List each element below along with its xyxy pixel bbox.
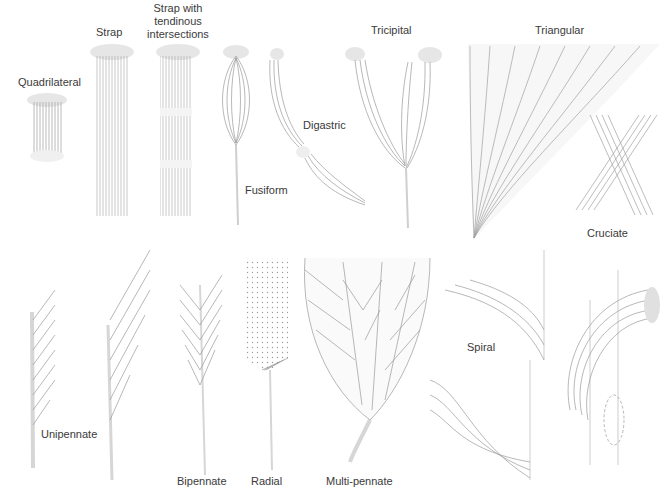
label-tricipital: Tricipital — [371, 24, 412, 37]
label-triangular: Triangular — [535, 24, 584, 37]
label-spiral: Spiral — [467, 341, 495, 354]
bipennate-muscle — [180, 275, 222, 475]
triangular-muscle — [468, 44, 660, 240]
radial-muscle — [244, 258, 288, 470]
muscle-illustrations — [0, 0, 670, 499]
muscle-shapes-figure: Quadrilateral Strap Strap with tendinous… — [0, 0, 670, 499]
tricipital-muscle — [345, 47, 442, 228]
fusiform-muscle — [223, 45, 250, 225]
label-unipennate: Unipennate — [41, 428, 97, 441]
label-cruciate: Cruciate — [587, 227, 628, 240]
cruciate-muscle — [576, 115, 657, 215]
label-bipennate: Bipennate — [177, 475, 227, 488]
label-quadrilateral: Quadrilateral — [18, 76, 81, 89]
unipennate-muscle — [32, 250, 150, 480]
label-digastric: Digastric — [303, 119, 346, 132]
strap-tendinous-muscle — [156, 44, 200, 216]
quadrilateral-muscle — [27, 93, 67, 162]
multi-pennate-muscle — [304, 258, 430, 462]
label-strap-tendinous: Strap with tendinous intersections — [138, 2, 218, 41]
label-strap: Strap — [96, 26, 122, 39]
spiral-muscle — [430, 250, 660, 480]
label-radial: Radial — [251, 475, 282, 488]
strap-muscle — [90, 44, 134, 216]
label-multi-pennate: Multi-pennate — [326, 475, 393, 488]
label-fusiform: Fusiform — [245, 184, 288, 197]
